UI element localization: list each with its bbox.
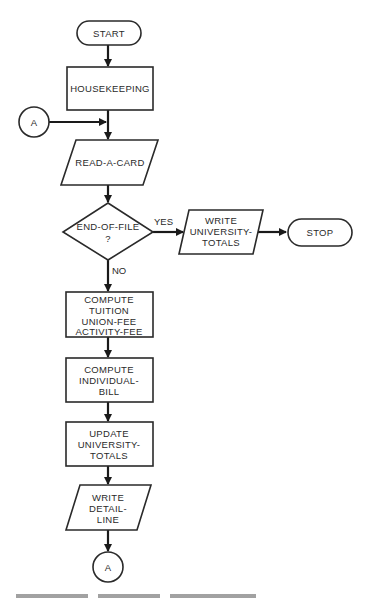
node-label: LINE (97, 514, 119, 525)
node-label: ACTIVITY-FEE (75, 326, 142, 337)
figure-caption-cropped (16, 588, 256, 599)
node-stop: STOP (288, 219, 352, 246)
node-eof-decision: END-OF-FILE ? (63, 203, 153, 260)
caption-text-fragment (16, 594, 256, 598)
node-label: INDIVIDUAL- (79, 375, 139, 386)
node-label: COMPUTE (84, 294, 134, 305)
node-read-card: READ-A-CARD (61, 140, 158, 185)
node-start: START (77, 21, 141, 45)
node-label: TOTALS (202, 237, 240, 248)
node-label: A (105, 562, 112, 573)
node-write-totals: WRITE UNIVERSITY- TOTALS (179, 210, 263, 254)
node-label: UNIVERSITY- (190, 226, 253, 237)
node-label: READ-A-CARD (75, 157, 144, 168)
node-label: COMPUTE (84, 364, 134, 375)
node-label: WRITE (205, 215, 237, 226)
node-label: STOP (307, 227, 334, 238)
node-label: DETAIL- (89, 503, 127, 514)
node-compute-bill: COMPUTE INDIVIDUAL- BILL (66, 358, 153, 402)
node-update-totals: UPDATE UNIVERSITY- TOTALS (66, 422, 153, 466)
flowchart: START HOUSEKEEPING A READ-A-CARD END-OF-… (0, 0, 374, 599)
node-label: UNIVERSITY- (78, 439, 141, 450)
node-connector-in: A (19, 107, 49, 137)
node-label: ? (105, 233, 111, 244)
node-housekeeping: HOUSEKEEPING (67, 67, 153, 110)
node-label: BILL (99, 386, 120, 397)
node-label: START (93, 28, 125, 39)
node-label: TUITION (89, 305, 129, 316)
node-label: TOTALS (90, 450, 128, 461)
node-label: A (31, 117, 38, 128)
node-write-detail: WRITE DETAIL- LINE (66, 485, 151, 530)
node-label: WRITE (92, 492, 124, 503)
node-connector-out: A (93, 552, 123, 582)
edge-label-no: NO (112, 265, 126, 276)
edge-label-yes: YES (154, 216, 173, 227)
node-label: HOUSEKEEPING (70, 83, 150, 94)
node-compute-fees: COMPUTE TUITION UNION-FEE ACTIVITY-FEE (66, 292, 153, 337)
node-label: END-OF-FILE (77, 221, 140, 232)
node-label: UPDATE (89, 428, 129, 439)
